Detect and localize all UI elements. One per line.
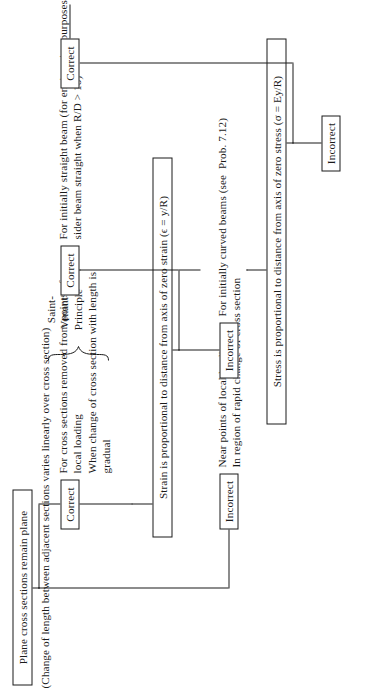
assumption-parenthetical: (Change of length between adjacent secti… <box>38 328 50 688</box>
connector-correct-2-out <box>79 269 80 270</box>
connector-to-correct-2 <box>178 269 200 270</box>
node-strain-statement: Strain is proportional to distance from … <box>152 157 172 537</box>
connector-split-2 <box>178 270 179 350</box>
connector-stress-feed <box>246 269 266 270</box>
connector-correct-2-to-stress <box>246 269 247 270</box>
verdict-incorrect-2: Incorrect <box>219 322 238 378</box>
connector-correct-3-tail <box>69 4 70 38</box>
node-stress-statement: Stress is proportional to distance from … <box>266 38 286 424</box>
flowchart-canvas: Plane cross sections remain plane (Chang… <box>0 0 390 689</box>
connector-to-correct-1 <box>38 503 60 504</box>
figure-stage: Plane cross sections remain plane (Chang… <box>0 0 390 689</box>
connector-correct-3-riser <box>79 62 292 63</box>
connector-incorrect-drop-1 <box>38 587 228 588</box>
connector-strain-feed <box>131 503 152 504</box>
connector-correct-1-out <box>79 503 131 504</box>
saint-venant-brace <box>47 345 109 361</box>
verdict-incorrect-3: Incorrect <box>321 115 340 171</box>
connector-split-3 <box>292 63 293 143</box>
verdict-correct-3: Correct <box>60 38 79 88</box>
connector-split-1 <box>38 504 39 588</box>
note-branch2-incorrect: For initially curved beams (see Prob. 7.… <box>214 117 228 316</box>
verdict-correct-2: Correct <box>60 245 79 295</box>
verdict-incorrect-1: Incorrect <box>219 473 238 529</box>
connector-correct-2-riser <box>79 269 178 270</box>
verdict-correct-1: Correct <box>60 479 79 529</box>
node-assumption: Plane cross sections remain plane <box>12 489 32 685</box>
